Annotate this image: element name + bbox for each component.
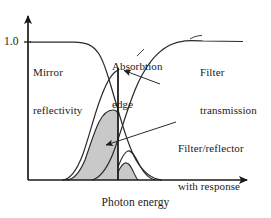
absorption-edge-label-line2: edge — [112, 98, 163, 111]
y-axis-tick-label: 1.0 — [4, 35, 19, 48]
absorption-edge-label: Absorbtion edge — [112, 35, 163, 135]
filter-transmission-label-line1: Filter — [200, 66, 257, 79]
filter-transmission-label-line2: transmission — [200, 104, 257, 117]
response-label-formula: E/ΔE ≃ 4 — [178, 217, 244, 218]
x-axis-label: Photon energy — [0, 196, 271, 209]
mirror-reflectivity-label-line1: Mirror — [33, 66, 82, 79]
absorption-edge-label-line1: Absorbtion — [112, 60, 163, 73]
filter-transmission-leader-tick — [190, 35, 202, 39]
figure-container: 1.0 Mirror reflectivity Absorbtion edge … — [0, 0, 271, 218]
mirror-reflectivity-label-line2: reflectivity — [33, 104, 82, 117]
response-label-line1: Filter/reflector — [178, 142, 244, 155]
mirror-reflectivity-label: Mirror reflectivity — [33, 41, 82, 141]
response-label-line2: with response — [178, 180, 244, 193]
